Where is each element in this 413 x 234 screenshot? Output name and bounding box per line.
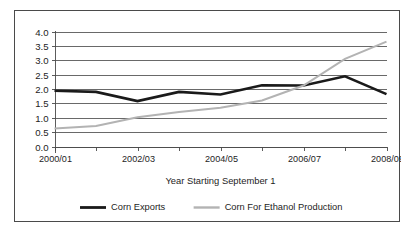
x-axis-tick-label: 2004/05 <box>205 154 238 164</box>
y-axis-tick-label: 3.0 <box>35 55 48 66</box>
chart-figure-frame: 0.00.51.01.52.02.53.03.54.0 2000/012002/… <box>14 10 400 222</box>
series-group <box>55 42 387 129</box>
y-axis-tick-label: 0.0 <box>35 142 48 153</box>
legend-label: Corn For Ethanol Production <box>225 202 343 212</box>
x-axis-tick-label: 2008/09 <box>371 154 401 164</box>
x-axis-tick-label: 2006/07 <box>288 154 321 164</box>
x-axis-title: Year Starting September 1 <box>165 175 275 186</box>
y-axis-tick-label: 1.0 <box>35 113 48 124</box>
gridlines-group <box>55 33 387 148</box>
axis-group <box>52 31 388 153</box>
ytick-labels-group: 0.00.51.01.52.02.53.03.54.0 <box>35 27 48 153</box>
y-axis-tick-label: 0.5 <box>35 127 48 138</box>
legend-label: Corn Exports <box>111 202 166 212</box>
x-axis-tick-label: 2000/01 <box>39 154 72 164</box>
series-line-corn-for-ethanol-production <box>55 42 387 129</box>
y-axis-tick-label: 1.5 <box>35 98 48 109</box>
x-axis-tick-label: 2002/03 <box>122 154 155 164</box>
legend-group: Corn ExportsCorn For Ethanol Production <box>80 202 342 212</box>
y-axis-tick-label: 3.5 <box>35 41 48 52</box>
y-axis-tick-label: 2.0 <box>35 84 48 95</box>
y-axis-tick-label: 4.0 <box>35 27 48 38</box>
line-chart: 0.00.51.01.52.02.53.03.54.0 2000/012002/… <box>15 11 401 223</box>
x-axis-title-group: Year Starting September 1 <box>165 175 275 186</box>
series-line-corn-exports <box>55 76 387 101</box>
xtick-labels-group: 2000/012002/032004/052006/072008/09 <box>39 154 401 164</box>
y-axis-tick-label: 2.5 <box>35 70 48 81</box>
